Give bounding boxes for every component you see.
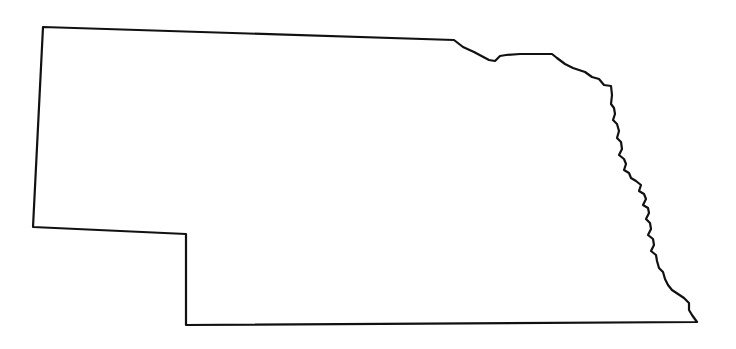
map-canvas xyxy=(0,0,736,349)
map-svg xyxy=(0,0,736,349)
